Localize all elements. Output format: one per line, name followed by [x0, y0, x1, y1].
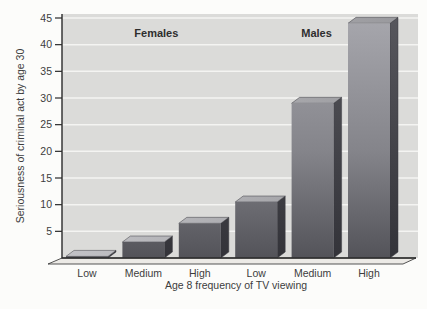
bar-males-medium [292, 97, 342, 258]
bar-front-face [348, 23, 390, 258]
group-label-males: Males [301, 27, 332, 39]
bar-males-high [348, 17, 398, 258]
bar-front-face [122, 242, 164, 258]
bar-top-face [179, 217, 229, 223]
bar-top-face [66, 250, 116, 256]
bar-side-face [277, 196, 285, 258]
floor [48, 258, 416, 264]
bar-top-face [235, 196, 285, 202]
y-tick-label: 45 [40, 12, 52, 24]
bar-females-low [66, 250, 116, 258]
bar-front-face [235, 202, 277, 258]
x-category-label: Low [77, 267, 97, 279]
bar-front-face [179, 223, 221, 258]
x-category-label: High [358, 267, 380, 279]
bar-top-face [292, 97, 342, 103]
bar-side-face [390, 17, 398, 258]
y-tick-label: 35 [40, 65, 52, 77]
y-tick-label: 25 [40, 118, 52, 130]
x-category-label: Medium [294, 267, 332, 279]
x-category-label: Medium [125, 267, 163, 279]
bar-males-low [235, 196, 285, 258]
y-tick-label: 30 [40, 92, 52, 104]
y-tick-label: 15 [40, 172, 52, 184]
bar-top-face [348, 17, 398, 23]
bar-chart: 51015202530354045LowMediumHighLowMediumH… [0, 0, 427, 309]
x-category-label: Low [247, 267, 267, 279]
bar-side-face [334, 97, 342, 258]
x-category-label: High [189, 267, 211, 279]
group-label-females: Females [134, 27, 178, 39]
y-tick-label: 5 [46, 225, 52, 237]
bar-females-high [179, 217, 229, 258]
bar-top-face [122, 236, 172, 242]
y-tick-label: 10 [40, 198, 52, 210]
y-axis-label: Seriousness of criminal act by age 30 [14, 49, 26, 224]
y-tick-label: 40 [40, 38, 52, 50]
y-tick-label: 20 [40, 145, 52, 157]
x-axis-label: Age 8 frequency of TV viewing [165, 279, 307, 291]
bar-females-medium [122, 236, 172, 258]
bar-front-face [292, 103, 334, 258]
figure: 51015202530354045LowMediumHighLowMediumH… [0, 0, 427, 309]
bar-side-face [221, 217, 229, 258]
